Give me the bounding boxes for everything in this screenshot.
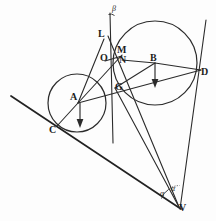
figure-canvas [0,0,216,221]
tangent-line-to-V [11,96,181,209]
label-V: V [179,203,186,213]
label-D: D [201,67,208,77]
line-B-to-D [155,63,201,70]
line-D-to-V [180,20,206,209]
line-A-to-L [78,39,104,103]
label-L: L [98,29,105,39]
label-A: A [70,92,77,102]
label-C: C [49,125,56,135]
label-G: G [115,82,123,92]
label-B: B [150,53,157,63]
label-O: O [100,53,108,63]
line-G-to-V [115,88,179,207]
label-N: N [119,55,126,65]
beta-angle-arc [109,14,115,15]
label-alpha-left: α [160,190,164,198]
label-alpha-right: α [171,185,175,193]
vertical-line-through-L [110,13,113,143]
geometry-figure: β L M O N B D G A C α α V [0,0,216,221]
arrow-head-at-A [77,119,84,128]
line-A-to-D [78,70,201,103]
label-beta: β [112,5,116,13]
line-A-to-C [57,103,78,126]
